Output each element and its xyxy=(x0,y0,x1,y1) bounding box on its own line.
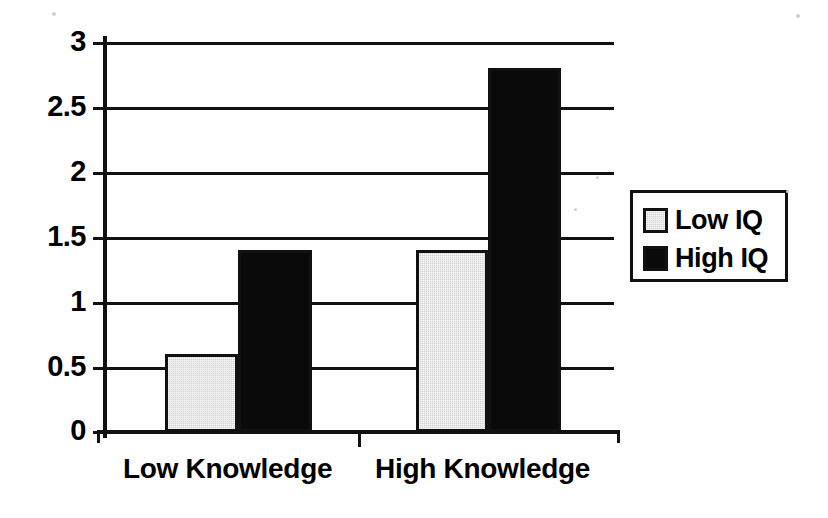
legend-label-high-iq: High IQ xyxy=(675,245,768,272)
ytick-label-2-5: 2.5 xyxy=(47,92,86,121)
x-axis-label-high-knowledge: High Knowledge xyxy=(375,455,590,483)
ytick-label-2: 2 xyxy=(70,157,86,186)
x-axis-label-low-knowledge: Low Knowledge xyxy=(123,455,332,483)
bar-high-knowledge-low-iq xyxy=(416,250,488,432)
scan-speck xyxy=(796,14,800,18)
scan-speck xyxy=(596,176,599,179)
legend-label-low-iq: Low IQ xyxy=(675,207,763,234)
scan-speck xyxy=(786,190,789,193)
low-iq-swatch-icon xyxy=(643,208,668,233)
legend: Low IQ High IQ xyxy=(630,190,788,282)
legend-item-low-iq: Low IQ xyxy=(643,201,785,239)
gridline-3 xyxy=(103,42,614,45)
ytick-label-0: 0 xyxy=(70,416,86,445)
category-separator-tick xyxy=(358,433,361,447)
high-iq-swatch-icon xyxy=(643,246,668,271)
ytick-label-1-5: 1.5 xyxy=(47,222,86,251)
scan-speck xyxy=(574,208,577,211)
ytick-label-1: 1 xyxy=(70,287,86,316)
scan-speck xyxy=(52,12,56,16)
ytick-label-3: 3 xyxy=(70,27,86,56)
y-axis-line xyxy=(103,36,107,438)
bar-low-knowledge-low-iq xyxy=(165,354,238,432)
legend-item-high-iq: High IQ xyxy=(643,239,785,277)
x-axis-cap-right xyxy=(617,430,620,443)
bar-low-knowledge-high-iq xyxy=(238,250,312,432)
bar-high-knowledge-high-iq xyxy=(488,68,561,432)
x-axis-cap-left xyxy=(97,430,100,443)
bar-chart: 3 2.5 2 1.5 1 0.5 0 Low xyxy=(0,0,828,518)
ytick-label-0-5: 0.5 xyxy=(47,352,86,381)
